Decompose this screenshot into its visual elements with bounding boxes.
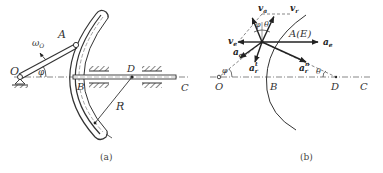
guide-top-left (89, 66, 109, 71)
label-D-b: D (330, 81, 339, 92)
label-phi-a: φ (38, 67, 45, 77)
label-theta-b: θ (316, 67, 321, 76)
guide-bottom-right (142, 83, 162, 88)
guide-bottom-left (89, 83, 109, 88)
label-O-b: O (215, 81, 223, 92)
label-C-a: C (181, 82, 189, 93)
label-a-e: ae (323, 37, 333, 48)
label-a-rt: art (249, 60, 259, 74)
label-A-a: A (57, 28, 66, 41)
label-theta-top: θ (264, 20, 269, 29)
slot-bottom-cap (95, 131, 107, 140)
label-B-b: B (269, 81, 277, 92)
label-v-r: vr (290, 3, 299, 14)
label-R: R (115, 100, 124, 113)
label-v-a: va (258, 3, 267, 14)
guide-top-right (142, 66, 162, 71)
label-a-a: aa (233, 47, 243, 58)
label-phi-b: φ (222, 66, 228, 75)
crank-OA-1 (19, 44, 75, 74)
pin-A (73, 42, 78, 47)
label-omega: ωO (32, 38, 44, 49)
figure-b: O B D C A(E) φ θ φ θ va vr ve ae aa art … (210, 3, 372, 162)
label-B-a: B (76, 81, 84, 92)
caption-b: (b) (300, 152, 313, 162)
label-O-a: O (10, 65, 19, 78)
figure-a: O A B C D R φ ωO (a) (10, 10, 190, 162)
label-C-b: C (360, 81, 368, 92)
caption-a: (a) (100, 152, 112, 162)
label-a-rn: arn (299, 60, 309, 74)
omega-arrow (40, 53, 46, 60)
label-v-e: ve (228, 36, 237, 47)
label-phi-top: φ (255, 20, 261, 29)
point-A-b (260, 40, 263, 43)
label-D-a: D (126, 63, 135, 74)
vector-a-rn (262, 42, 306, 62)
label-AE: A(E) (288, 28, 311, 39)
slot-top-cap (96, 10, 108, 18)
crank-OA-2 (21, 48, 77, 79)
